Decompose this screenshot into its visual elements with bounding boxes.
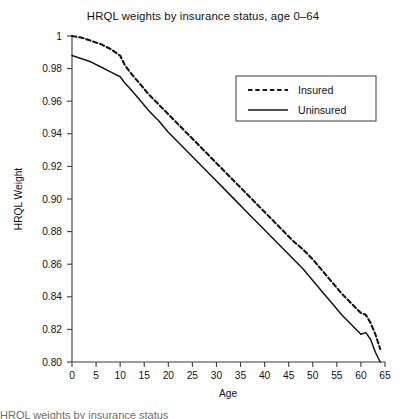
y-tick-label: 0.84 (42, 291, 62, 302)
x-tick-label: 30 (211, 370, 223, 381)
y-tick-label: 0.90 (42, 194, 62, 205)
x-tick-label: 40 (259, 370, 271, 381)
x-tick-label: 0 (69, 370, 75, 381)
y-tick-label: 0.98 (42, 63, 62, 74)
y-tick-label: 0.88 (42, 226, 62, 237)
hrql-line-chart: HRQL weights by insurance status, age 0–… (0, 0, 406, 419)
x-tick-label: 55 (331, 370, 343, 381)
y-tick-label: 0.86 (42, 259, 62, 270)
x-tick-label: 5 (93, 370, 99, 381)
y-tick-label: 0.94 (42, 128, 62, 139)
x-tick-label: 15 (139, 370, 151, 381)
x-tick-label: 65 (379, 370, 391, 381)
chart-title: HRQL weights by insurance status, age 0–… (87, 10, 319, 22)
y-tick-label: 0.80 (42, 357, 62, 368)
x-tick-label: 25 (187, 370, 199, 381)
x-axis-title: Age (219, 388, 237, 399)
x-tick-label: 20 (163, 370, 175, 381)
y-tick-label: 1 (56, 31, 62, 42)
x-tick-label: 35 (235, 370, 247, 381)
x-tick-label: 60 (355, 370, 367, 381)
legend-label-insured: Insured (298, 84, 333, 96)
figure-caption: HRQL weights by insurance status (0, 409, 406, 419)
y-axis-title: HRQL Weight (13, 168, 24, 230)
x-tick-label: 10 (114, 370, 126, 381)
x-tick-label: 45 (283, 370, 295, 381)
chart-figure: HRQL weights by insurance status, age 0–… (0, 0, 406, 419)
x-axis: 05101520253035404550556065 (69, 362, 391, 381)
y-tick-label: 0.96 (42, 96, 62, 107)
y-tick-label: 0.82 (42, 324, 62, 335)
y-axis: 0.800.820.840.860.880.900.920.940.960.98… (42, 31, 72, 368)
x-tick-label: 50 (307, 370, 319, 381)
legend-label-uninsured: Uninsured (298, 104, 346, 116)
chart-legend: Insured Uninsured (236, 76, 376, 121)
y-tick-label: 0.92 (42, 161, 62, 172)
